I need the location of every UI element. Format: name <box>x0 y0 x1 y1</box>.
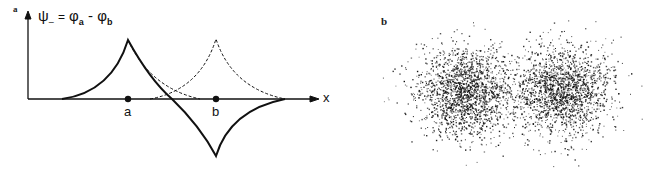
electron-density-clouds <box>383 20 643 167</box>
x-axis-arrow-icon <box>310 96 319 102</box>
psi-minus-curve <box>62 40 285 156</box>
figure-graphics <box>0 0 650 174</box>
dashed-orbitals <box>128 39 285 99</box>
y-axis-arrow-icon <box>25 11 31 19</box>
point-a-marker <box>125 96 131 102</box>
point-b-marker <box>213 96 219 102</box>
